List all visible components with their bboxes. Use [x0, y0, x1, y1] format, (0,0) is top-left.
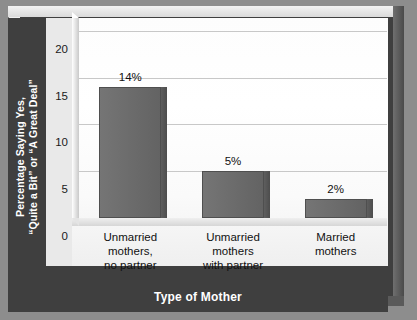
bar-side-face	[264, 171, 270, 218]
bar-side-face	[367, 199, 373, 218]
x-axis-category-label-line: no partner	[79, 258, 182, 272]
bar-value-label: 2%	[305, 183, 367, 195]
bar	[202, 171, 264, 218]
x-axis-category-label-line: Unmarried	[182, 230, 285, 244]
x-axis-category-label: Unmarriedmotherswith partner	[182, 230, 285, 272]
x-axis-title-band: Type of Mother	[8, 282, 388, 312]
frame-right-bevel	[393, 6, 404, 306]
x-axis-category-label-line: mothers	[182, 244, 285, 258]
y-axis-tick-label: 0	[62, 230, 68, 242]
y-axis-title: Percentage Saying Yes, “Quite a Bit” or …	[14, 79, 40, 235]
x-axis-category-label-line: Unmarried	[79, 230, 182, 244]
bar-value-label: 14%	[99, 71, 161, 83]
plot-left-wall	[72, 18, 79, 218]
x-axis-category-label: Unmarriedmothers,no partner	[79, 230, 182, 272]
bar	[99, 87, 161, 218]
plot-area: 14%5%2%	[79, 12, 387, 218]
plot-floor	[72, 218, 387, 226]
y-axis-title-line-1: Percentage Saying Yes,	[14, 79, 27, 235]
x-axis-title: Type of Mother	[8, 290, 388, 304]
y-axis-tick-strip: 05101520	[46, 18, 72, 266]
y-axis-tick-label: 20	[55, 43, 68, 55]
x-axis-category-label-line: mothers	[284, 244, 387, 258]
bar-value-label: 5%	[202, 155, 264, 167]
x-axis-category-label-line: with partner	[182, 258, 285, 272]
bar	[305, 199, 367, 218]
y-axis-tick-label: 10	[55, 136, 68, 148]
x-axis-category-labels: Unmarriedmothers,no partnerUnmarriedmoth…	[79, 230, 387, 276]
x-axis-category-label-line: Married	[284, 230, 387, 244]
bar-side-face	[161, 87, 167, 218]
gridline	[79, 31, 387, 32]
plot-left-wall-cap	[72, 12, 79, 18]
x-axis-category-label: Marriedmothers	[284, 230, 387, 258]
y-axis-title-band: Percentage Saying Yes, “Quite a Bit” or …	[8, 18, 46, 296]
y-axis-tick-label: 5	[62, 183, 68, 195]
plot-floor-slant	[72, 218, 79, 226]
y-axis-tick-label: 15	[55, 90, 68, 102]
y-axis-title-line-2: “Quite a Bit” or “A Great Deal”	[27, 79, 40, 235]
x-axis-category-label-line: mothers,	[79, 244, 182, 258]
